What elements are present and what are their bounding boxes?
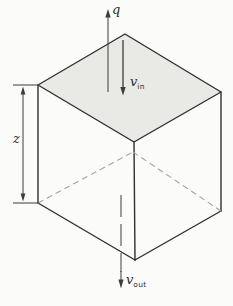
v-out-label: vout xyxy=(126,273,147,289)
v-in-label-subscript: in xyxy=(137,82,144,91)
cube-diagram-svg xyxy=(0,0,233,306)
cube-hidden-edges xyxy=(38,152,221,211)
cube-edge-bottom-left xyxy=(38,203,135,260)
q-label: q xyxy=(112,3,120,16)
cube-edge-bottom-right xyxy=(135,211,221,260)
cube-hidden-edge-back-right xyxy=(133,152,221,211)
cube-hidden-edge-back-left xyxy=(38,152,133,203)
v-in-label: vin xyxy=(130,75,145,91)
z-arrowhead-down xyxy=(21,194,26,202)
cube-edge-front-vertical xyxy=(134,142,135,260)
q-arrowhead-up xyxy=(105,9,110,18)
v-out-label-subscript: out xyxy=(133,280,146,289)
z-arrowhead-up xyxy=(21,87,26,95)
v-out-arrowhead-down xyxy=(118,280,123,289)
control-volume-figure: q vin z vout xyxy=(0,0,233,306)
z-label: z xyxy=(13,132,20,145)
